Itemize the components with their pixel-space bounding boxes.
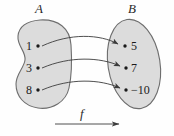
element-label-a-1: 3 [10, 62, 32, 74]
element-label-b-2: −10 [131, 84, 150, 96]
function-name-label: f [80, 106, 84, 122]
element-label-a-2: 8 [10, 84, 32, 96]
element-dot-b-5 [123, 44, 126, 47]
element-dot-a-8 [36, 88, 39, 91]
set-a-label: A [35, 1, 43, 17]
set-b-label: B [128, 1, 136, 17]
element-dot-b-minus10 [124, 88, 127, 91]
element-dot-a-1 [36, 44, 39, 47]
function-mapping-figure: A B 1 3 8 5 7 −10 f [0, 0, 174, 136]
element-dot-a-3 [36, 66, 39, 69]
element-label-b-1: 7 [131, 62, 137, 74]
element-label-b-0: 5 [131, 40, 137, 52]
element-label-a-0: 1 [10, 40, 32, 52]
element-dot-b-7 [124, 66, 127, 69]
